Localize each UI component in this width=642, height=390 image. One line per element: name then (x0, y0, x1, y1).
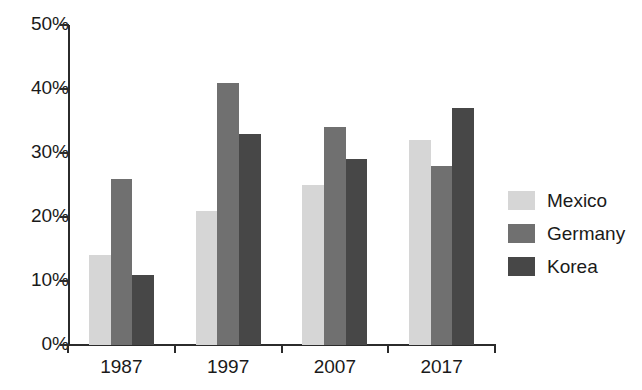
bar-germany-1997 (217, 83, 239, 345)
x-axis-tick-mark (281, 344, 283, 353)
bar-chart: 0%10%20%30%40%50% 1987199720072017 Mexic… (0, 0, 642, 390)
legend-swatch-icon (508, 191, 535, 210)
legend-item-label: Germany (547, 224, 625, 243)
y-axis-line (68, 25, 70, 346)
legend-swatch-icon (508, 224, 535, 243)
bar-germany-2007 (324, 127, 346, 345)
x-axis-group-label: 2017 (388, 356, 495, 377)
bar-korea-2007 (346, 159, 368, 345)
bar-mexico-1987 (89, 255, 111, 345)
y-axis-tick-mark (60, 280, 69, 282)
chart-legend: MexicoGermanyKorea (508, 184, 625, 283)
bar-korea-1987 (132, 275, 154, 345)
y-axis-tick-mark (60, 152, 69, 154)
bar-korea-1997 (239, 134, 261, 345)
y-axis-tick-mark (60, 216, 69, 218)
x-axis-group-label: 1987 (68, 356, 175, 377)
bar-mexico-1997 (196, 211, 218, 345)
bar-korea-2017 (452, 108, 474, 345)
y-axis-tick: 20% (0, 216, 69, 218)
y-axis-tick-mark (60, 24, 69, 26)
y-axis-tick: 50% (0, 24, 69, 26)
x-axis-tick-mark (387, 344, 389, 353)
x-axis-tick-mark (494, 344, 496, 353)
y-axis-tick: 0% (0, 344, 69, 346)
legend-swatch-icon (508, 257, 535, 276)
y-axis-tick: 10% (0, 280, 69, 282)
bar-mexico-2007 (302, 185, 324, 345)
bar-germany-1987 (111, 179, 133, 345)
x-axis-tick-mark (174, 344, 176, 353)
bar-germany-2017 (431, 166, 453, 345)
legend-item-korea[interactable]: Korea (508, 250, 625, 283)
bar-mexico-2017 (409, 140, 431, 345)
legend-item-mexico[interactable]: Mexico (508, 184, 625, 217)
legend-item-germany[interactable]: Germany (508, 217, 625, 250)
y-axis-tick: 40% (0, 88, 69, 90)
legend-item-label: Mexico (547, 191, 607, 210)
legend-item-label: Korea (547, 257, 598, 276)
x-axis-group-label: 1997 (175, 356, 282, 377)
x-axis-tick-mark (67, 344, 69, 353)
y-axis-tick-mark (60, 88, 69, 90)
x-axis-group-label: 2007 (282, 356, 389, 377)
y-axis-tick: 30% (0, 152, 69, 154)
